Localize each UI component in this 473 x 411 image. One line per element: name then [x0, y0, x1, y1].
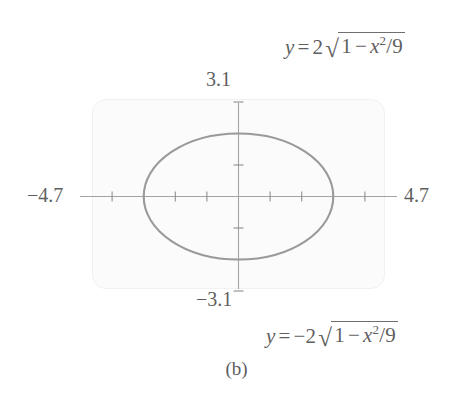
window-xmin-label: −4.7 — [27, 184, 63, 207]
equation-upper-radicand-denominator: 9 — [392, 34, 403, 58]
equation-lower-radicand-var: x — [363, 323, 373, 347]
equation-upper-lhs: y — [285, 35, 295, 59]
radical-icon: √ — [318, 325, 332, 350]
equation-upper-radicand-minus: − — [352, 34, 370, 58]
window-xmax-label: 4.7 — [404, 184, 429, 207]
equation-lower-radical: √1−x2/9 — [316, 322, 398, 350]
calculator-viewport-panel — [92, 99, 385, 289]
equation-lower-radicand-first: 1 — [334, 323, 345, 347]
equation-lower-coefficient: −2 — [294, 324, 317, 348]
figure-caption: (b) — [0, 358, 473, 380]
equation-upper-coefficient: 2 — [313, 35, 324, 59]
equation-lower-lhs: y — [266, 324, 276, 348]
equation-lower-radicand-minus: − — [345, 323, 363, 347]
radical-icon: √ — [325, 36, 339, 61]
equation-upper-radicand: 1−x2/9 — [338, 32, 405, 59]
equation-upper-radical: √1−x2/9 — [323, 33, 405, 61]
equation-upper-equals: = — [295, 35, 313, 59]
equation-lower-radicand: 1−x2/9 — [331, 321, 398, 348]
window-ymax-label: 3.1 — [206, 68, 231, 91]
equation-upper-branch: y=2√1−x2/9 — [285, 33, 405, 61]
equation-lower-equals: = — [276, 324, 294, 348]
equation-lower-branch: y=−2√1−x2/9 — [266, 322, 398, 350]
equation-lower-radicand-denominator: 9 — [385, 323, 396, 347]
window-ymin-label: −3.1 — [196, 288, 232, 311]
graphing-calculator-figure: y=2√1−x2/9 y=−2√1−x2/9 — [0, 0, 473, 411]
equation-upper-radicand-first: 1 — [341, 34, 352, 58]
